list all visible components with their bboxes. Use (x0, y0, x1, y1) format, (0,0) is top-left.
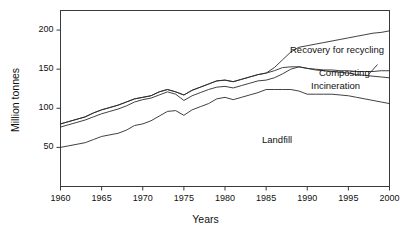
y-tick-label: 50 (43, 141, 53, 151)
y-tick-label: 150 (38, 63, 53, 73)
x-axis-title: Years (0, 213, 411, 225)
x-tick-label: 1985 (252, 193, 280, 203)
x-tick-label: 1980 (211, 193, 239, 203)
chart-figure: 50100150200 1960196519701975198019851990… (0, 0, 411, 236)
x-tick-label: 1990 (293, 193, 321, 203)
series-label-landfill: Landfill (262, 134, 292, 145)
x-tick-label: 1995 (334, 193, 362, 203)
plot-frame (61, 11, 390, 187)
x-tick-label: 1975 (170, 193, 198, 203)
y-axis-title: Million tonnes (9, 64, 21, 136)
y-tick-label: 200 (38, 24, 53, 34)
x-tick-label: 1960 (47, 193, 75, 203)
series-label-incineration: Incineration (311, 80, 360, 91)
x-tick-label: 1970 (129, 193, 157, 203)
series-label-composting: Composting (319, 67, 370, 78)
composting-leader-line (369, 65, 378, 75)
y-tick-label: 100 (38, 102, 53, 112)
series-label-recovery-for-recycling: Recovery for recycling (290, 44, 384, 55)
x-tick-label: 1965 (88, 193, 116, 203)
x-tick-label: 2000 (376, 193, 404, 203)
